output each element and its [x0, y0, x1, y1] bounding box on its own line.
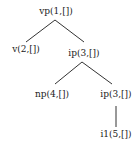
node-vp: vp(1,[])	[39, 6, 72, 17]
node-ip-root: ip(3,[])	[68, 48, 99, 59]
node-v: v(2,[])	[12, 44, 40, 55]
edge-ip-ip	[82, 62, 112, 84]
parse-tree: vp(1,[]) v(2,[]) ip(3,[]) np(4,[]) ip(3,…	[0, 0, 139, 154]
node-i1: i1(5,[])	[100, 129, 131, 140]
node-ip-child: ip(3,[])	[100, 89, 131, 100]
edge-ip-np	[55, 62, 82, 84]
edge-vp-ip	[55, 20, 84, 42]
edge-vp-v	[26, 20, 55, 42]
node-np: np(4,[])	[35, 89, 69, 100]
